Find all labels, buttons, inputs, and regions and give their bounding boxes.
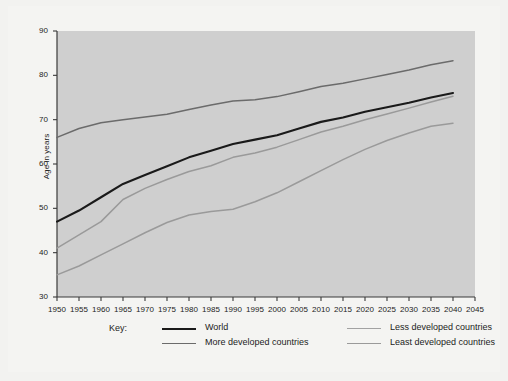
series-line (57, 123, 453, 275)
chart-legend: Key: WorldMore developed countriesLess d… (57, 321, 487, 355)
data-series-lines (57, 61, 453, 275)
legend-label: World (205, 322, 228, 332)
chart-screenshot: Age in years 30405060708090 195019551960… (0, 0, 508, 381)
legend-swatch (162, 328, 196, 330)
y-tick-label: 40 (26, 248, 48, 257)
legend-label: Least developed countries (390, 337, 495, 347)
y-tick-label: 90 (26, 26, 48, 35)
y-tick-label: 60 (26, 159, 48, 168)
axis-ticks (53, 31, 475, 301)
x-tick-label: 2045 (460, 305, 490, 314)
legend-label: More developed countries (205, 337, 309, 347)
legend-swatch (347, 343, 381, 344)
y-tick-label: 30 (26, 292, 48, 301)
legend-swatch (347, 328, 381, 329)
legend-swatch (162, 343, 196, 344)
axis-lines (57, 31, 475, 297)
y-tick-label: 70 (26, 115, 48, 124)
y-tick-label: 80 (26, 70, 48, 79)
series-line (57, 96, 453, 248)
series-line (57, 61, 453, 138)
legend-title: Key: (109, 323, 127, 333)
y-tick-label: 50 (26, 203, 48, 212)
legend-label: Less developed countries (390, 322, 492, 332)
